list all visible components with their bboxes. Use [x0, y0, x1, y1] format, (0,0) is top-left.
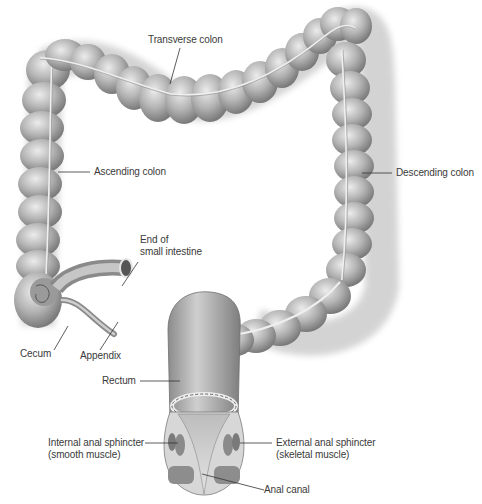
label-text-line-2: (skeletal muscle) [276, 449, 375, 461]
label-anal-canal: Anal canal [264, 484, 310, 496]
label-text: Transverse colon [148, 34, 223, 46]
label-text-line-2: (smooth muscle) [48, 449, 144, 461]
label-text-line-1: Internal anal sphincter [48, 437, 144, 449]
internal-sphincter-right [223, 434, 233, 456]
label-descending-colon: Descending colon [396, 167, 474, 179]
label-cecum: Cecum [20, 348, 51, 360]
appendix [62, 300, 114, 334]
ascending-colon [16, 50, 70, 282]
label-text: Appendix [80, 350, 121, 362]
label-text-line-1: External anal sphincter [276, 437, 375, 449]
rectum [168, 292, 240, 420]
internal-sphincter-left [175, 434, 185, 456]
label-text-line-2: small intestine [140, 246, 202, 258]
external-sphincter-right [232, 433, 240, 451]
label-text: Cecum [20, 348, 51, 360]
label-transverse-colon: Transverse colon [148, 34, 223, 46]
label-ascending-colon: Ascending colon [94, 166, 166, 178]
label-external-anal-sphincter: External anal sphincter (skeletal muscle… [276, 437, 375, 461]
label-text: Anal canal [264, 484, 310, 496]
label-end-of-small-intestine: End of small intestine [140, 234, 202, 258]
external-sphincter-left [168, 433, 176, 451]
label-text: Rectum [102, 375, 136, 387]
large-intestine-diagram [0, 0, 482, 504]
anal-canal-region [164, 412, 244, 495]
label-rectum: Rectum [102, 375, 136, 387]
label-internal-anal-sphincter: Internal anal sphincter (smooth muscle) [48, 437, 144, 461]
label-appendix: Appendix [80, 350, 121, 362]
label-text-line-1: End of [140, 234, 202, 246]
label-text: Descending colon [396, 167, 474, 179]
small-intestine-end [56, 259, 132, 288]
label-text: Ascending colon [94, 166, 166, 178]
